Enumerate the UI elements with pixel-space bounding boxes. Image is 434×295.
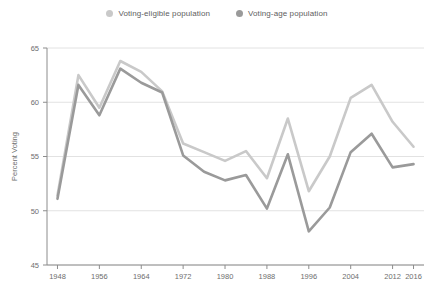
x-axis-tick-label: 1956 [91, 272, 108, 281]
y-axis-tick-label: 65 [31, 44, 39, 53]
x-axis-tick-label: 2012 [384, 272, 401, 281]
x-axis-tick-label: 2016 [405, 272, 422, 281]
x-axis-tick-label: 1964 [133, 272, 150, 281]
chart-plot-area: 4550556065 19481956196419721980198819962… [0, 0, 434, 295]
chart-series-group [57, 61, 413, 231]
series-line [57, 61, 413, 196]
x-axis-tick-label: 1972 [175, 272, 192, 281]
y-axis-tick-label: 45 [31, 261, 39, 270]
y-axis-tick-label: 55 [31, 152, 39, 161]
chart-x-axis: 1948195619641972198019881996200420122016 [47, 265, 424, 281]
x-axis-tick-label: 1980 [217, 272, 234, 281]
chart-y-axis: 4550556065 [31, 44, 47, 270]
voter-turnout-chart: Voting-eligible population Voting-age po… [0, 0, 434, 295]
x-axis-tick-label: 1996 [300, 272, 317, 281]
y-axis-tick-label: 50 [31, 207, 39, 216]
x-axis-tick-label: 2004 [342, 272, 359, 281]
x-axis-tick-label: 1988 [259, 272, 276, 281]
y-axis-tick-label: 60 [31, 98, 39, 107]
y-axis-title: Percent Voting [10, 132, 19, 181]
x-axis-tick-label: 1948 [49, 272, 66, 281]
